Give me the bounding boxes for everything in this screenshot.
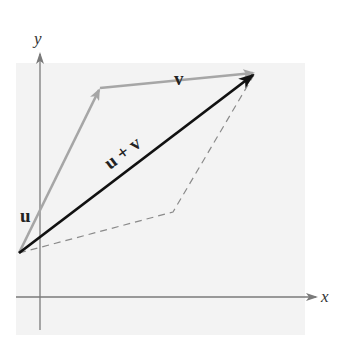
diagram-svg: y x u v u + v [0, 0, 343, 345]
label-v: v [174, 68, 184, 89]
x-axis-label: x [320, 287, 329, 306]
y-axis-label: y [32, 29, 42, 48]
vector-diagram: y x u v u + v [0, 0, 343, 345]
label-u: u [20, 205, 31, 226]
plot-background [16, 63, 305, 335]
